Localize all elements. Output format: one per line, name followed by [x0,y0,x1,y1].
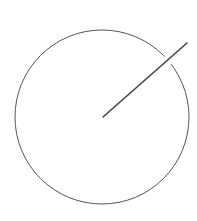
circle-outline [15,30,189,204]
radius-line [103,43,187,117]
diagram-canvas [0,0,197,221]
